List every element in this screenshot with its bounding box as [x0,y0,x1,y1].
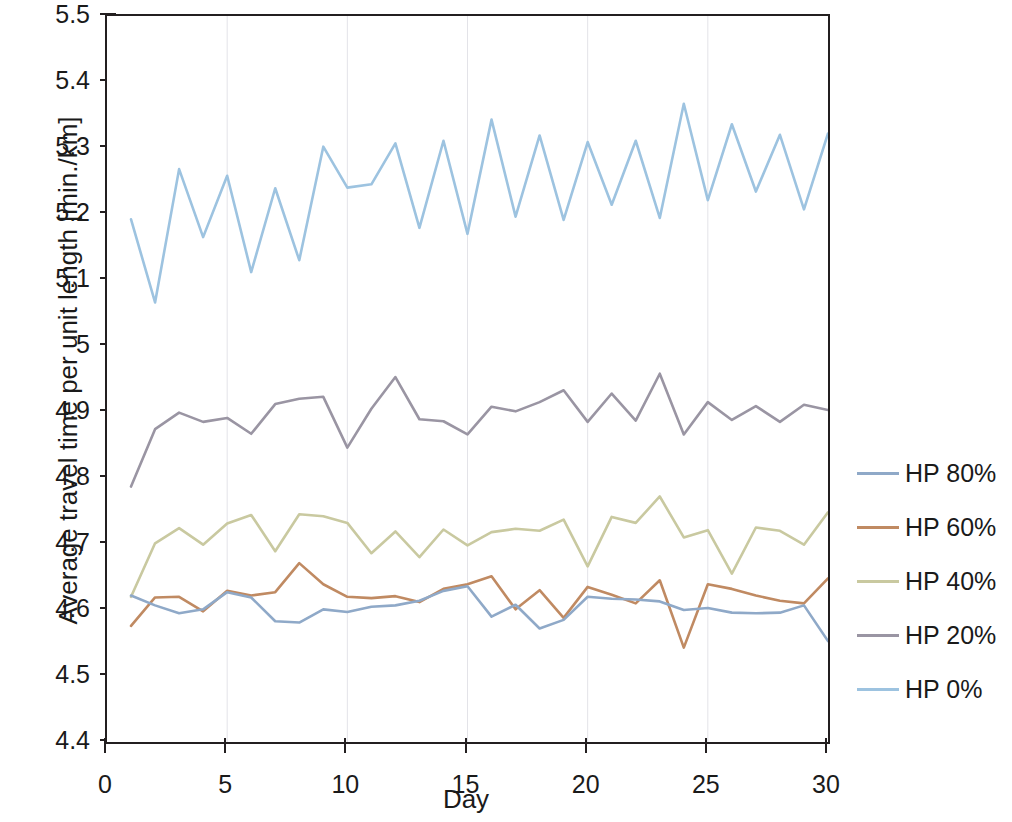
legend-label: HP 80% [905,461,996,486]
plot-area [105,14,830,744]
legend-swatch-line-icon [857,688,899,691]
series-line-hp-20 [131,374,828,487]
x-tick-mark [825,738,827,753]
legend-label: HP 0% [905,677,982,702]
y-tick-label: 4.5 [20,662,90,687]
y-tick-label: 4.6 [20,596,90,621]
y-tick-label: 4.7 [20,530,90,555]
series-line-hp-60 [131,563,828,647]
x-axis-tick-labels: 051015202530 [105,752,865,786]
chart-legend: HP 80%HP 60%HP 40%HP 20%HP 0% [857,446,1012,716]
legend-swatch-line-icon [857,580,899,583]
x-axis-title: Day [105,784,827,815]
y-tick-label: 5.3 [20,134,90,159]
legend-label: HP 20% [905,623,996,648]
y-tick-label: 4.4 [20,728,90,753]
y-tick-label: 5.5 [20,2,90,27]
legend-item-hp-40[interactable]: HP 40% [857,554,1012,608]
y-tick-label: 5.1 [20,266,90,291]
legend-label: HP 40% [905,569,996,594]
legend-item-hp-80[interactable]: HP 80% [857,446,1012,500]
y-tick-label: 5.2 [20,200,90,225]
legend-swatch-line-icon [857,634,899,637]
x-tick-mark [224,738,226,753]
y-tick-label: 5 [20,332,90,357]
series-line-hp-0 [131,104,828,303]
legend-item-hp-60[interactable]: HP 60% [857,500,1012,554]
x-tick-mark [585,738,587,753]
y-axis-tick-labels: 5.55.45.35.25.154.94.84.74.64.54.4 [16,0,90,822]
legend-item-hp-0[interactable]: HP 0% [857,662,1012,716]
legend-item-hp-20[interactable]: HP 20% [857,608,1012,662]
series-line-hp-80 [131,586,828,641]
x-tick-mark [705,738,707,753]
series-line-hp-40 [131,496,828,596]
series-canvas [107,16,828,742]
y-tick-label: 4.8 [20,464,90,489]
chart-figure: Average travel time per unit length [min… [0,0,1012,822]
legend-swatch-line-icon [857,472,899,475]
y-tick-label: 4.9 [20,398,90,423]
x-tick-mark [344,738,346,753]
y-tick-label: 5.4 [20,68,90,93]
legend-label: HP 60% [905,515,996,540]
legend-swatch-line-icon [857,526,899,529]
x-tick-mark [465,738,467,753]
x-tick-mark [104,738,106,753]
